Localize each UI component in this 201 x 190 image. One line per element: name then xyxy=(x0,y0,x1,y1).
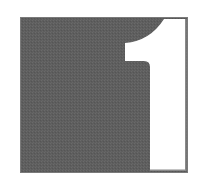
number-one-graphic xyxy=(20,17,188,173)
number-one-tile-icon: 1 xyxy=(20,17,188,173)
